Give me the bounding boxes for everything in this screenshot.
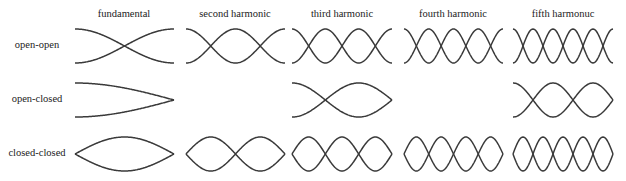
envelope-curve <box>75 137 174 154</box>
wave-open-open-harmonic-2 <box>186 29 285 63</box>
wave-closed-closed-harmonic-1 <box>75 137 174 171</box>
wave-open-open-harmonic-3 <box>292 29 392 63</box>
envelope-curve <box>75 29 174 63</box>
envelope-curve <box>404 137 503 171</box>
envelope-curve <box>292 137 392 171</box>
wave-open-open-harmonic-1 <box>75 29 174 63</box>
envelope-curve <box>75 154 174 171</box>
wave-open-closed-harmonic-1 <box>75 83 174 117</box>
envelope-curve <box>404 29 503 63</box>
envelope-curve <box>186 137 285 171</box>
envelope-curve <box>404 29 503 63</box>
envelope-curve <box>75 100 174 117</box>
wave-closed-closed-harmonic-3 <box>292 137 392 171</box>
wave-open-open-harmonic-4 <box>404 29 503 63</box>
wave-closed-closed-harmonic-2 <box>186 137 285 171</box>
wave-closed-closed-harmonic-5 <box>513 137 613 171</box>
wave-open-open-harmonic-5 <box>513 29 613 63</box>
envelope-curve <box>186 29 285 63</box>
envelope-curve <box>186 29 285 63</box>
standing-wave-diagram <box>0 0 626 181</box>
wave-open-closed-harmonic-3 <box>292 83 392 117</box>
wave-closed-closed-harmonic-4 <box>404 137 503 171</box>
envelope-curve <box>292 29 392 63</box>
envelope-curve <box>292 137 392 171</box>
envelope-curve <box>75 83 174 100</box>
wave-open-closed-harmonic-5 <box>513 83 613 117</box>
